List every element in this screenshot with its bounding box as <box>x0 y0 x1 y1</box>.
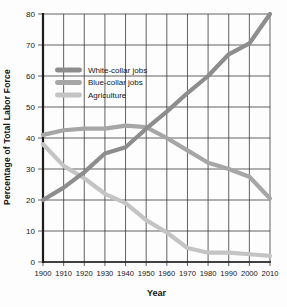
x-tick-label: 1900 <box>35 269 52 278</box>
labor-force-chart: Percentage of Total Labor Force 01020304… <box>0 0 287 307</box>
x-tick-label: 1950 <box>138 269 155 278</box>
legend: White-collar jobsBlue-collar jobsAgricul… <box>55 66 147 100</box>
legend-swatch-agriculture <box>55 93 82 98</box>
plot-area: 0102030405060708019001910192019301940195… <box>0 0 287 307</box>
y-tick-label: 60 <box>26 72 35 81</box>
x-tick-label: 1970 <box>179 269 196 278</box>
x-tick-label: 1990 <box>220 269 237 278</box>
y-tick-label: 0 <box>31 258 36 267</box>
x-tick-label: 1930 <box>96 269 113 278</box>
y-tick-label: 30 <box>26 165 35 174</box>
legend-label-white-collar-jobs: White-collar jobs <box>88 66 147 75</box>
y-tick-label: 80 <box>26 10 35 19</box>
x-tick-label: 2010 <box>262 269 279 278</box>
x-tick-label: 1980 <box>200 269 217 278</box>
x-tick-labels: 1900191019201930194019501960197019801990… <box>35 269 279 278</box>
x-axis-title: Year <box>43 288 270 298</box>
x-tick-label: 1940 <box>117 269 134 278</box>
x-tick-label: 1910 <box>55 269 72 278</box>
x-tick-label: 1920 <box>76 269 93 278</box>
legend-label-agriculture: Agriculture <box>88 91 127 100</box>
x-tick-label: 2000 <box>241 269 258 278</box>
x-tick-label: 1960 <box>158 269 175 278</box>
y-tick-label: 50 <box>26 103 35 112</box>
series-line-blue-collar-jobs <box>43 126 270 199</box>
legend-swatch-white-collar-jobs <box>55 68 82 73</box>
y-tick-label: 20 <box>26 196 35 205</box>
legend-label-blue-collar-jobs: Blue-collar jobs <box>88 78 143 87</box>
y-tick-label: 40 <box>26 134 35 143</box>
legend-swatch-blue-collar-jobs <box>55 80 82 85</box>
y-tick-labels: 01020304050607080 <box>26 10 35 267</box>
y-tick-label: 10 <box>26 227 35 236</box>
y-tick-label: 70 <box>26 41 35 50</box>
